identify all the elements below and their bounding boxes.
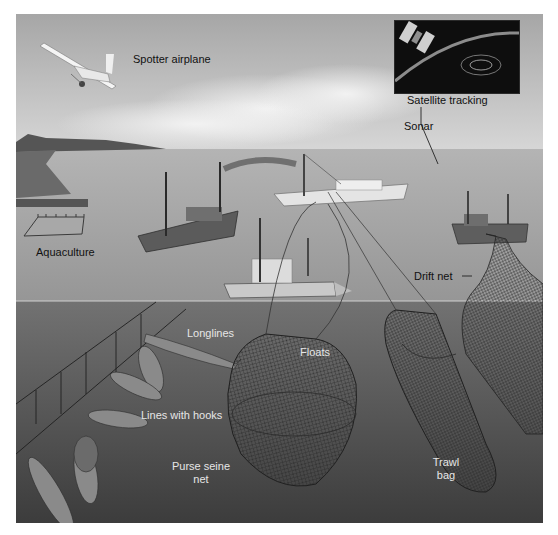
label-satellite-tracking: Satellite tracking (407, 94, 488, 107)
label-floats: Floats (300, 346, 330, 359)
satellite-image (394, 20, 520, 94)
label-longlines: Longlines (187, 327, 234, 340)
label-purse-seine-line1: Purse seine (166, 460, 236, 473)
label-trawl-bag: Trawl bag (426, 456, 466, 482)
label-drift-net: Drift net (414, 270, 453, 283)
label-aquaculture: Aquaculture (36, 246, 95, 259)
label-lines-with-hooks: Lines with hooks (141, 409, 222, 422)
label-sonar: Sonar (404, 120, 433, 133)
label-purse-seine-net: Purse seine net (166, 460, 236, 486)
label-spotter-airplane: Spotter airplane (133, 53, 211, 66)
dock (16, 199, 88, 207)
label-trawl-line1: Trawl (426, 456, 466, 469)
fishing-methods-illustration: Spotter airplane Satellite tracking Sona… (16, 14, 543, 523)
satellite-icon (399, 21, 435, 53)
label-purse-seine-line2: net (166, 473, 236, 486)
label-trawl-line2: bag (426, 469, 466, 482)
turtle (74, 436, 98, 472)
